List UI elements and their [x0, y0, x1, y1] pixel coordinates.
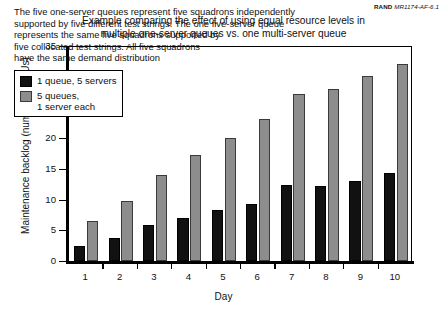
bar-series-1-day-4: [190, 155, 201, 261]
x-tick-label-5: 5: [211, 272, 235, 282]
annotation-line-3: represents the same five squadrons suppo…: [14, 29, 334, 41]
y-tick-label-10: 10: [26, 195, 56, 205]
x-tick-2: [137, 262, 138, 269]
bar-series-1-day-6: [259, 119, 270, 261]
x-tick-4: [206, 262, 207, 269]
bar-series-0-day-1: [74, 246, 85, 261]
chart-figure: RAND MR1174-AF-6.1 Example comparing the…: [0, 0, 447, 312]
x-tick-1: [102, 262, 103, 269]
bar-series-0-day-3: [143, 225, 154, 261]
source-figure-id: MR1174-AF-6.1: [394, 3, 439, 10]
bar-series-0-day-7: [281, 185, 292, 261]
bar-series-1-day-1: [87, 221, 98, 261]
x-tick-label-10: 10: [383, 272, 407, 282]
bar-series-0-day-8: [315, 186, 326, 261]
annotation-line-5: have the same demand distribution: [14, 52, 334, 64]
x-tick-label-2: 2: [108, 272, 132, 282]
x-tick-label-7: 7: [280, 272, 304, 282]
bar-series-1-day-3: [156, 175, 167, 261]
legend-label-0: 1 queue, 5 servers: [37, 75, 116, 86]
x-tick-3: [171, 262, 172, 269]
bar-series-0-day-6: [246, 204, 257, 261]
y-tick-label-15: 15: [26, 164, 56, 174]
x-tick-label-1: 1: [73, 272, 97, 282]
y-tick-label-5: 5: [26, 225, 56, 235]
x-tick-8: [343, 262, 344, 269]
x-tick-5: [240, 262, 241, 269]
bar-series-1-day-5: [225, 138, 236, 261]
annotation-line-2: supported by five different test strings…: [14, 18, 334, 30]
x-tick-label-3: 3: [142, 272, 166, 282]
x-tick-label-9: 9: [348, 272, 372, 282]
chart-annotation: The five one-server queues represent fiv…: [14, 6, 334, 64]
x-tick-label-6: 6: [245, 272, 269, 282]
legend-swatch-gray-icon: [20, 91, 32, 102]
bar-series-1-day-2: [121, 201, 132, 261]
annotation-line-1: The five one-server queues represent fiv…: [14, 6, 334, 18]
source-organization: RAND: [374, 3, 392, 10]
bar-series-1-day-7: [293, 94, 304, 261]
x-tick-label-8: 8: [314, 272, 338, 282]
legend-swatch-black-icon: [20, 76, 32, 87]
legend-item-0: 1 queue, 5 servers: [20, 75, 116, 87]
x-tick-7: [309, 262, 310, 269]
bar-series-1-day-9: [362, 76, 373, 261]
x-tick-label-4: 4: [176, 272, 200, 282]
y-tick-label-0: 0: [26, 256, 56, 266]
bar-series-0-day-4: [177, 218, 188, 261]
x-axis-title: Day: [0, 291, 447, 302]
y-tick-label-20: 20: [26, 133, 56, 143]
bar-series-0-day-5: [212, 210, 223, 261]
legend-item-1: 5 queues, 1 server each: [20, 90, 116, 112]
chart-legend: 1 queue, 5 servers 5 queues, 1 server ea…: [14, 70, 123, 117]
bar-series-1-day-10: [397, 64, 408, 261]
x-tick-6: [274, 262, 275, 269]
bar-series-1-day-8: [328, 89, 339, 261]
bar-series-0-day-10: [384, 173, 395, 261]
annotation-line-4: five collocated test strings. All five s…: [14, 41, 334, 53]
source-credit: RAND MR1174-AF-6.1: [374, 3, 439, 10]
bar-series-0-day-2: [109, 238, 120, 261]
legend-label-1: 5 queues, 1 server each: [37, 90, 95, 112]
bar-series-0-day-9: [349, 181, 360, 261]
x-tick-9: [378, 262, 379, 269]
